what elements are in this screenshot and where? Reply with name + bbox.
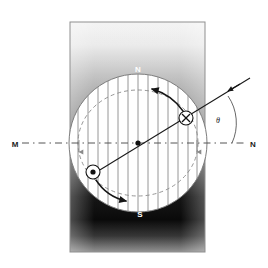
pole-label-north: N [135,65,141,74]
current-into-page-marker [179,111,193,125]
figure-canvas: θ N S M N [0,0,268,268]
axis-label-m: M [12,140,19,149]
rotation-centre-dot [135,140,140,145]
magnetic-field-rotating-coil-figure: θ N S M N [0,0,268,268]
current-out-of-page-marker [86,165,100,179]
dot-icon [90,169,95,174]
axis-label-n: N [250,140,256,149]
angle-theta-label: θ [216,116,220,125]
pole-label-south: S [137,210,143,219]
